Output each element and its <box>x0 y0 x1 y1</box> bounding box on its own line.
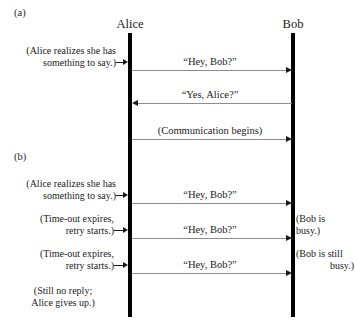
left-note-line-1: (Still no reply; <box>4 285 122 297</box>
note-arrow-1-icon <box>123 59 128 65</box>
left-note-alice-realizes-a: (Alice realizes she has something to say… <box>4 45 116 68</box>
left-note-line-1: (Time-out expires, <box>4 248 114 260</box>
right-note-line-1: (Bob is <box>296 213 354 225</box>
left-note-gives-up: (Still no reply; Alice gives up.) <box>4 285 122 308</box>
message-arrowhead-m1-icon <box>286 67 292 73</box>
left-note-line-2: something to say.) <box>4 190 116 202</box>
left-note-line-1: (Alice realizes she has <box>4 45 116 57</box>
message-label-m1: “Hey, Bob?” <box>150 56 270 67</box>
left-note-line-2: Alice gives up.) <box>4 297 122 309</box>
panel-label-b: (b) <box>14 151 26 162</box>
right-note-line-2: busy.) <box>296 260 354 272</box>
message-label-m4: “Hey, Bob?” <box>150 189 270 200</box>
left-note-timeout-1: (Time-out expires, retry starts.) <box>4 213 114 236</box>
message-label-m6: “Hey, Bob?” <box>150 259 270 270</box>
message-label-m3: (Communication begins) <box>140 125 280 136</box>
panel-label-a: (a) <box>14 7 26 18</box>
message-line-m3 <box>132 139 287 140</box>
actor-name-alice: Alice <box>105 17 155 32</box>
right-note-line-2: busy.) <box>296 225 354 237</box>
message-arrowhead-m4-icon <box>286 200 292 206</box>
left-note-line-2: something to say.) <box>4 57 116 69</box>
message-line-m2 <box>138 103 292 104</box>
left-note-line-2: retry starts.) <box>4 225 114 237</box>
note-arrow-3-icon <box>123 227 128 233</box>
message-label-m2: “Yes, Alice?” <box>150 89 270 100</box>
lifeline-alice <box>128 33 132 317</box>
right-note-bob-busy: (Bob is busy.) <box>296 213 354 236</box>
sequence-diagram-figure: (a) (b) Alice Bob (Alice realizes she ha… <box>0 0 356 330</box>
left-note-line-2: retry starts.) <box>4 260 114 272</box>
message-arrowhead-m2-icon <box>132 100 138 106</box>
right-note-line-1: (Bob is still <box>296 248 354 260</box>
left-note-line-1: (Alice realizes she has <box>4 178 116 190</box>
note-arrow-4-icon <box>123 262 128 268</box>
message-label-m5: “Hey, Bob?” <box>150 224 270 235</box>
message-line-m1 <box>132 70 287 71</box>
message-line-m6 <box>132 273 287 274</box>
message-arrowhead-m6-icon <box>286 270 292 276</box>
left-note-alice-realizes-b: (Alice realizes she has something to say… <box>4 178 116 201</box>
note-arrow-2-icon <box>123 192 128 198</box>
actor-name-bob: Bob <box>268 17 318 32</box>
message-line-m4 <box>132 203 287 204</box>
right-note-bob-still-busy: (Bob is still busy.) <box>296 248 354 271</box>
message-arrowhead-m5-icon <box>286 235 292 241</box>
message-line-m5 <box>132 238 287 239</box>
left-note-timeout-2: (Time-out expires, retry starts.) <box>4 248 114 271</box>
left-note-line-1: (Time-out expires, <box>4 213 114 225</box>
message-arrowhead-m3-icon <box>286 136 292 142</box>
